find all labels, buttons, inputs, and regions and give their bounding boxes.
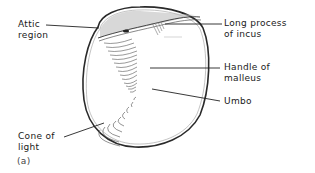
label-cone-of-light: Cone of light: [18, 131, 55, 153]
label-long-process-of-incus: Long process of incus: [224, 18, 287, 40]
panel-label: (a): [17, 156, 30, 167]
malleus-handle: [104, 39, 137, 92]
label-attic-region: Attic region: [18, 19, 48, 41]
umbo-leader: [152, 89, 220, 101]
cone-of-light: [99, 97, 136, 146]
label-umbo: Umbo: [224, 96, 252, 107]
attic-leader: [46, 25, 99, 28]
label-handle-of-malleus: Handle of malleus: [224, 62, 270, 84]
